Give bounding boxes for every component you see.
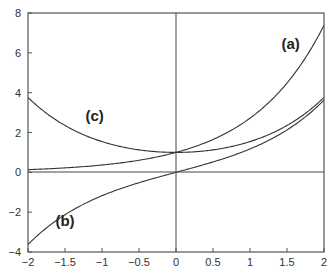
- curve-label: (b): [55, 212, 74, 229]
- y-tick-label: 6: [15, 47, 21, 59]
- x-tick-label: −0.5: [128, 256, 150, 268]
- y-tick-label: 4: [15, 87, 21, 99]
- x-tick-label: −1.5: [54, 256, 76, 268]
- x-tick-label: 0: [173, 256, 179, 268]
- y-tick-label: 2: [15, 127, 21, 139]
- x-tick-label: −1: [96, 256, 109, 268]
- y-tick-label: −2: [8, 206, 21, 218]
- x-tick-label: 0.5: [205, 256, 220, 268]
- y-tick-label: 0: [15, 166, 21, 178]
- curve-label: (a): [282, 35, 300, 52]
- x-tick-label: 1.5: [279, 256, 294, 268]
- y-tick-label: 8: [15, 7, 21, 19]
- x-axis: −2−1.5−1−0.500.511.52: [22, 248, 327, 268]
- x-tick-label: 2: [321, 256, 327, 268]
- curve-label: (c): [85, 107, 103, 124]
- x-tick-label: −2: [22, 256, 35, 268]
- y-tick-label: −4: [8, 246, 21, 258]
- x-tick-label: 1: [247, 256, 253, 268]
- chart: −2−1.5−1−0.500.511.52 −4−202468 (a)(b)(c…: [0, 0, 335, 275]
